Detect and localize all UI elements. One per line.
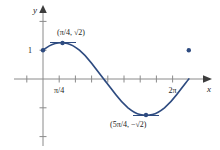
maximum-point-dot — [60, 41, 64, 45]
trig-graph-figure: y x 1 π/4 2π (π/4, √2) (5π/4, −√2) — [0, 0, 220, 150]
x-tick-label-two-pi: 2π — [169, 86, 177, 95]
y-axis-arrow-icon — [39, 5, 47, 13]
plot-area: y x 1 π/4 2π (π/4, √2) (5π/4, −√2) — [0, 0, 220, 150]
left-endpoint-dot — [41, 48, 45, 52]
x-tick-label-pi-over-4: π/4 — [54, 86, 64, 95]
x-axis-label: x — [206, 84, 211, 94]
x-axis-arrow-icon — [203, 75, 212, 83]
minimum-point-label: (5π/4, −√2) — [110, 120, 147, 129]
y-tick-label-1: 1 — [28, 46, 32, 55]
right-endpoint-dot — [187, 48, 191, 52]
y-axis-label: y — [32, 5, 37, 15]
minimum-point-dot — [144, 113, 148, 117]
maximum-point-label: (π/4, √2) — [57, 28, 85, 37]
